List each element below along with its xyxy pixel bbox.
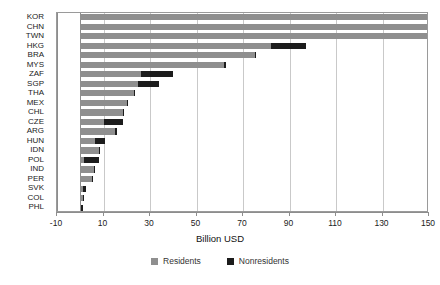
bar-row <box>57 203 427 212</box>
bar-segment-nonresidents <box>84 157 99 163</box>
x-tick-label: -10 <box>50 218 62 228</box>
bar-segment-residents <box>80 14 428 20</box>
category-label: CHN <box>0 22 48 32</box>
bar-segment-nonresidents <box>271 43 306 49</box>
bar-segment-nonresidents <box>141 71 174 77</box>
x-tick-label: 10 <box>98 218 107 228</box>
category-label: TWN <box>0 31 48 41</box>
bar-segment-nonresidents <box>95 138 104 144</box>
bar-row <box>57 89 427 99</box>
x-tick <box>103 212 104 216</box>
bar-segment-nonresidents <box>427 24 428 30</box>
category-label: COL <box>0 193 48 203</box>
bar-series-group <box>57 13 427 211</box>
x-tick-label: 30 <box>144 218 153 228</box>
bar-row <box>57 165 427 175</box>
bar-row <box>57 118 427 128</box>
bar-segment-residents <box>80 52 254 58</box>
category-label: POL <box>0 155 48 165</box>
bar-segment-nonresidents <box>123 109 124 115</box>
plot-area <box>56 12 428 212</box>
bar-segment-residents <box>80 24 426 30</box>
bar-segment-nonresidents <box>94 166 95 172</box>
x-tick <box>382 212 383 216</box>
bar-row <box>57 32 427 42</box>
bar-row <box>57 51 427 61</box>
bar-segment-nonresidents <box>255 52 256 58</box>
bar-segment-residents <box>80 128 115 134</box>
bar-segment-residents <box>80 138 95 144</box>
bar-row <box>57 61 427 71</box>
x-tick <box>56 212 57 216</box>
x-tick-label: 90 <box>284 218 293 228</box>
category-label: MEX <box>0 98 48 108</box>
bar-segment-nonresidents <box>224 62 225 68</box>
category-label: SVK <box>0 183 48 193</box>
category-label: BRA <box>0 50 48 60</box>
category-label: CZE <box>0 117 48 127</box>
bar-segment-nonresidents <box>127 100 128 106</box>
x-tick <box>428 212 429 216</box>
bar-segment-residents <box>80 119 103 125</box>
bar-segment-residents <box>80 176 92 182</box>
bar-chart: KORCHNTWNHKGBRAMYSZAFSGPTHAMEXCHLCZEARGH… <box>0 0 440 285</box>
legend-label-nonresidents: Nonresidents <box>239 256 289 266</box>
bar-segment-residents <box>80 147 99 153</box>
bar-row <box>57 99 427 109</box>
chart-legend: Residents Nonresidents <box>0 256 440 266</box>
bar-row <box>57 108 427 118</box>
bar-segment-nonresidents <box>81 205 82 211</box>
bar-row <box>57 70 427 80</box>
x-tick <box>289 212 290 216</box>
legend-swatch-residents <box>151 258 158 265</box>
bar-row <box>57 80 427 90</box>
bar-row <box>57 42 427 52</box>
category-label: CHL <box>0 107 48 117</box>
x-tick-label: 110 <box>328 218 342 228</box>
category-label: KOR <box>0 12 48 22</box>
bar-segment-residents <box>80 81 138 87</box>
category-label: THA <box>0 88 48 98</box>
bar-segment-nonresidents <box>138 81 159 87</box>
bar-segment-residents <box>80 100 127 106</box>
bar-row <box>57 23 427 33</box>
legend-label-residents: Residents <box>163 256 201 266</box>
bar-row <box>57 156 427 166</box>
bar-segment-nonresidents <box>83 186 86 192</box>
legend-item-residents: Residents <box>151 256 201 266</box>
category-label: PHL <box>0 202 48 212</box>
bar-row <box>57 137 427 147</box>
bar-segment-nonresidents <box>427 33 428 39</box>
category-label: ARG <box>0 126 48 136</box>
bar-segment-nonresidents <box>104 119 124 125</box>
x-tick-label: 50 <box>191 218 200 228</box>
bar-segment-residents <box>80 62 224 68</box>
x-axis-title: Billion USD <box>0 233 440 244</box>
bar-segment-residents <box>80 43 271 49</box>
category-axis-labels: KORCHNTWNHKGBRAMYSZAFSGPTHAMEXCHLCZEARGH… <box>0 12 48 212</box>
bar-segment-residents <box>80 166 94 172</box>
bar-segment-nonresidents <box>92 176 93 182</box>
category-label: HKG <box>0 41 48 51</box>
category-label: PER <box>0 174 48 184</box>
bar-segment-nonresidents <box>99 147 100 153</box>
bar-row <box>57 194 427 204</box>
bar-segment-residents <box>80 90 133 96</box>
category-label: ZAF <box>0 69 48 79</box>
bar-row <box>57 127 427 137</box>
bar-row <box>57 184 427 194</box>
bar-segment-nonresidents <box>115 128 117 134</box>
x-tick <box>335 212 336 216</box>
category-label: MYS <box>0 60 48 70</box>
legend-item-nonresidents: Nonresidents <box>227 256 289 266</box>
bar-segment-residents <box>80 109 123 115</box>
category-label: IDN <box>0 145 48 155</box>
bar-segment-nonresidents <box>134 90 135 96</box>
bar-segment-residents <box>80 71 140 77</box>
legend-swatch-nonresidents <box>227 258 234 265</box>
bar-segment-residents <box>80 33 426 39</box>
x-tick-label: 150 <box>421 218 435 228</box>
category-label: HUN <box>0 136 48 146</box>
category-label: IND <box>0 164 48 174</box>
bar-row <box>57 13 427 23</box>
